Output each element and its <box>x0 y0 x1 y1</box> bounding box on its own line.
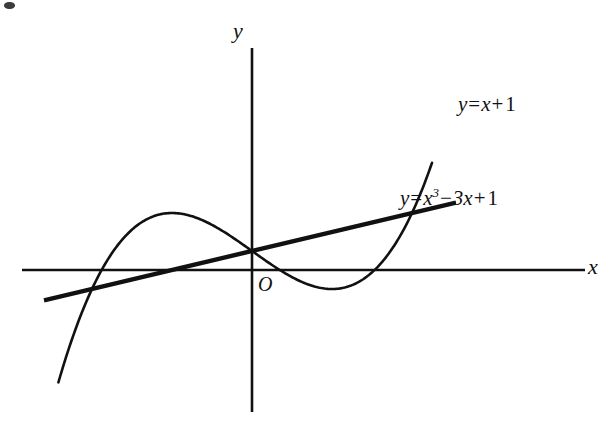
cubic-label-constant: 1 <box>487 186 500 210</box>
line-equation-label: y=x+1 <box>458 94 517 115</box>
plot-canvas <box>0 0 610 423</box>
cubic-label-variable: x <box>423 186 432 210</box>
cubic-curve-path <box>58 163 432 383</box>
line-label-equals: = <box>467 92 481 116</box>
graph-figure: y x O y=x+1 y=x3−3x+1 <box>0 0 610 423</box>
line-label-plus: + <box>491 92 505 116</box>
cubic-label-plus: + <box>473 186 487 210</box>
cubic-equation-label: y=x3−3x+1 <box>400 188 499 209</box>
line-label-variable: x <box>481 92 490 116</box>
origin-label: O <box>258 274 272 294</box>
y-axis-label: y <box>233 20 243 42</box>
curves-group <box>44 163 456 383</box>
line-label-constant: 1 <box>504 92 517 116</box>
line-label-lhs: y <box>458 92 467 116</box>
cubic-label-lhs: y <box>400 186 409 210</box>
x-axis-label: x <box>588 256 598 278</box>
cubic-label-linear-term: 3x <box>453 186 473 210</box>
cubic-label-equals: = <box>409 186 423 210</box>
linear-curve-path <box>44 203 456 301</box>
cubic-label-minus: − <box>439 186 453 210</box>
